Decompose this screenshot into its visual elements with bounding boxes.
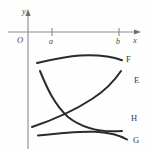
curve-label-G: G xyxy=(133,135,139,145)
curve-G xyxy=(38,132,127,140)
curve-label-F: F xyxy=(126,54,131,64)
curve-label-H: H xyxy=(131,113,137,123)
y-axis-arrow-icon xyxy=(25,9,30,16)
x-tick-label-b: b xyxy=(116,37,120,46)
curve-E xyxy=(32,71,121,127)
x-tick-label-a: a xyxy=(49,37,53,46)
math-figure: y x O a b F E H G xyxy=(0,0,148,150)
origin-label: O xyxy=(17,35,23,45)
y-axis-label: y xyxy=(21,6,26,16)
x-axis-label: x xyxy=(132,35,137,45)
curve-label-E: E xyxy=(134,75,139,85)
curve-H xyxy=(40,71,122,131)
x-axis-arrow-icon xyxy=(134,29,141,34)
curve-F xyxy=(37,55,122,63)
figure-canvas: y x O a b F E H G xyxy=(0,0,148,150)
